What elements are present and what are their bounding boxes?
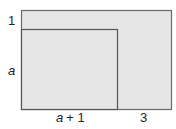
inner-width-variable: a: [56, 110, 63, 125]
area-diagram: 1 a a+ 1 3: [0, 0, 176, 129]
inner-rectangle: [22, 30, 118, 110]
inner-width-plus: + 1: [66, 110, 84, 125]
inner-height-label: a: [8, 63, 15, 78]
top-gap-label: 1: [8, 13, 15, 28]
right-gap-label: 3: [140, 110, 147, 125]
inner-width-label: a+ 1: [56, 110, 85, 125]
